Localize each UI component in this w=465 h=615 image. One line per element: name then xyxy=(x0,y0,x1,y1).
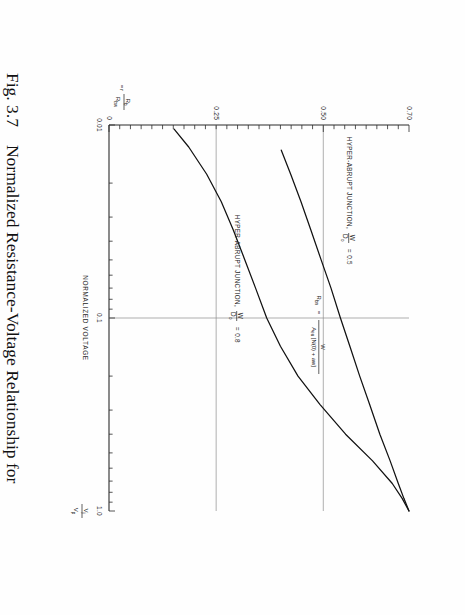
curve-label-a-frac-num: W xyxy=(349,234,356,240)
x-tick-labels: 0.010.11.0 xyxy=(96,118,103,516)
curve-label-a-text: HYPER-ABRUPT JUNCTION, xyxy=(346,136,353,228)
y-tick-label: 0.70 xyxy=(405,106,412,120)
y-tick-label: 0.25 xyxy=(212,106,219,120)
figure-number: Fig. 3.7 xyxy=(1,73,24,127)
data-curves xyxy=(174,129,409,511)
x-symbol-denominator: Vp xyxy=(71,507,80,514)
x-tick-label: 1.0 xyxy=(96,506,103,516)
curve-label-b-text: HYPER-ABRUPT JUNCTION, xyxy=(234,214,241,306)
x-axis-title-text: NORMALIZED VOLTAGE xyxy=(82,275,89,361)
y-symbol-r: r xyxy=(119,88,126,90)
figure-caption-text: Normalized Resistance-Voltage Relationsh… xyxy=(0,144,24,504)
curve-label-a: HYPER-ABRUPT JUNCTION, W Do = 0.5 xyxy=(340,136,356,264)
resistance-formula: Rbn = W Aeu [N(0) + aw] xyxy=(309,295,325,373)
curve-label-b-value: = 0.8 xyxy=(234,327,241,343)
formula-equals: = xyxy=(316,310,322,314)
x-axis-symbol: Vj Vp xyxy=(71,504,90,518)
y-tick-labels: 0.700.500.250 xyxy=(105,106,412,120)
curve-label-a-frac-den: Do xyxy=(340,234,349,242)
y-symbol-denominator: Rbw xyxy=(113,96,122,107)
rotated-plot-stage: 0.010.11.0 0.700.500.250 NORMALIZED VOLT… xyxy=(43,63,423,553)
curve-label-b: HYPER-ABRUPT JUNCTION, W Do = 0.8 xyxy=(228,214,244,342)
chart-svg: 0.010.11.0 0.700.500.250 NORMALIZED VOLT… xyxy=(109,125,409,511)
x-axis-title: NORMALIZED VOLTAGE xyxy=(82,275,89,361)
figure-page: 0.010.11.0 0.700.500.250 NORMALIZED VOLT… xyxy=(0,0,465,615)
x-tick-label: 0.01 xyxy=(96,118,103,132)
y-axis-symbol: Rb Rbw r = xyxy=(113,84,132,109)
formula-lhs: Rbn xyxy=(314,295,322,305)
curve-label-b-frac-num: W xyxy=(237,312,244,318)
plot-area: 0.010.11.0 0.700.500.250 NORMALIZED VOLT… xyxy=(109,125,409,511)
y-symbol-equals: = xyxy=(119,84,126,88)
y-tick-label: 0.50 xyxy=(319,106,326,120)
formula-denominator: Aeu [N(0) + aw] xyxy=(309,327,317,367)
formula-numerator: W xyxy=(319,344,325,350)
curve-b xyxy=(174,129,409,511)
x-tick-label: 0.1 xyxy=(96,313,103,323)
curve-a xyxy=(281,150,409,511)
curve-label-a-value: = 0.5 xyxy=(346,249,353,265)
y-tick-label: 0 xyxy=(105,116,112,120)
